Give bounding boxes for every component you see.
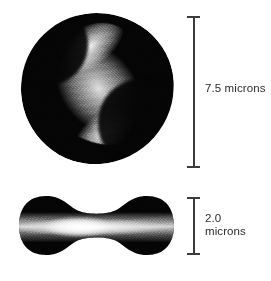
scale-bar-cap-bottom <box>187 253 200 255</box>
scale-label-diameter: 7.5 microns <box>205 82 266 95</box>
red-blood-cell-figure: 7.5 microns 2.0 microns <box>0 0 271 281</box>
scale-bar-stem <box>193 197 195 255</box>
red-blood-cell-top-view <box>21 13 174 164</box>
scale-label-thickness: 2.0 microns <box>205 212 246 238</box>
scale-bar-thickness <box>187 197 200 255</box>
cell-highlight-band-side <box>19 195 174 256</box>
scale-bar-stem <box>193 16 195 168</box>
scale-bar-cap-bottom <box>187 166 200 168</box>
red-blood-cell-side-view <box>19 195 174 256</box>
scale-bar-diameter <box>187 16 200 168</box>
